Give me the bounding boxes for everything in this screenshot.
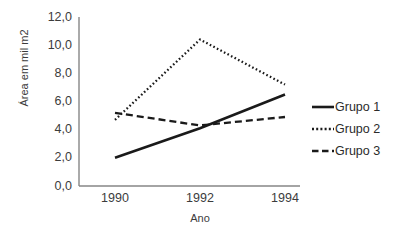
series-line-grupo-2 (115, 40, 285, 120)
legend-swatch-dotted-icon (312, 123, 334, 135)
chart-container: Área em mil m2 12,0 10,0 8,0 6,0 4,0 2,0… (0, 0, 415, 243)
legend-item-grupo-3: Grupo 3 (312, 140, 415, 162)
legend-label: Grupo 2 (335, 123, 380, 136)
legend-swatch-dashed-icon (312, 145, 334, 157)
legend-label: Grupo 1 (335, 101, 380, 114)
legend-label: Grupo 3 (335, 145, 380, 158)
series-line-grupo-3 (115, 113, 285, 126)
legend-item-grupo-1: Grupo 1 (312, 96, 415, 118)
series-line-grupo-1 (115, 94, 285, 157)
data-series-group (115, 40, 285, 158)
x-tick-label: 1992 (186, 192, 214, 205)
x-tick-label: 1994 (271, 192, 299, 205)
legend-item-grupo-2: Grupo 2 (312, 118, 415, 140)
chart-legend: Grupo 1 Grupo 2 Grupo 3 (312, 96, 415, 162)
x-tick-label: 1990 (101, 192, 129, 205)
x-axis-tick-labels: 1990 1992 1994 (0, 192, 415, 210)
x-axis-title: Ano (190, 212, 210, 224)
legend-swatch-solid-icon (312, 101, 334, 113)
